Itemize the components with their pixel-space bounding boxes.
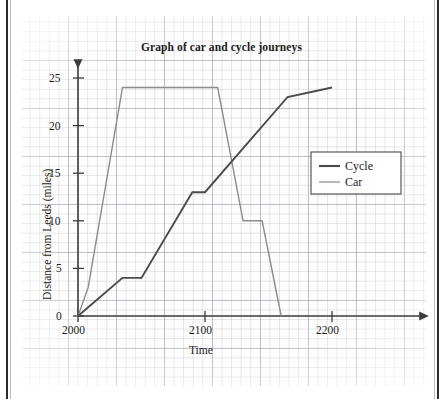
y-tick-label-25: 25 [49, 72, 61, 84]
chart-title: Graph of car and cycle journeys [141, 41, 302, 53]
y-tick-label-5: 5 [56, 262, 62, 274]
x-tick-label-2000: 2000 [62, 324, 85, 336]
x-tick-label-2100: 2100 [189, 324, 212, 336]
y-tick-label-20: 20 [49, 120, 61, 132]
chart-svg [0, 0, 445, 399]
legend-label-car: Car [345, 175, 362, 190]
chart-plot-area: Graph of car and cycle journeys 0 5 10 1… [0, 0, 445, 399]
series-line-car [78, 88, 281, 317]
scanned-page: Graph of car and cycle journeys 0 5 10 1… [0, 0, 445, 399]
x-tick-label-2200: 2200 [316, 324, 339, 336]
y-tick-label-0: 0 [56, 310, 62, 322]
legend-label-cycle: Cycle [345, 159, 373, 174]
y-axis-title: Distance from Leeds (miles) [41, 169, 53, 300]
x-axis-title: Time [189, 344, 213, 356]
